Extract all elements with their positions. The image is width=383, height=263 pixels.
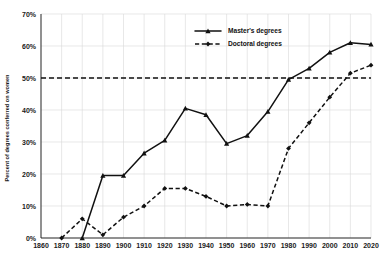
data-point-marker	[224, 204, 229, 209]
data-point-marker	[265, 204, 270, 209]
x-axis-tick-label: 1860	[33, 242, 49, 249]
grid-lines	[41, 14, 371, 238]
x-axis-tick-label: 1950	[219, 242, 235, 249]
legend-label: Doctoral degrees	[228, 40, 282, 48]
legend-item-masters[interactable]: Master's degrees	[195, 27, 282, 35]
x-axis-tick-label: 1870	[54, 242, 70, 249]
y-axis-tick-label: 20%	[22, 171, 37, 178]
x-axis-tick-label: 1920	[157, 242, 173, 249]
legend-marker-swatch	[206, 42, 211, 47]
y-axis-ticks: 0%10%20%30%40%50%60%70%	[22, 11, 37, 242]
y-axis-title: Percent of degrees conferred on women	[4, 74, 10, 182]
y-axis-tick-label: 60%	[22, 43, 37, 50]
data-point-marker	[204, 194, 209, 199]
x-axis-tick-label: 1880	[74, 242, 90, 249]
x-axis-ticks: 1860187018801890190019101920193019401950…	[33, 242, 379, 249]
y-axis-tick-label: 40%	[22, 107, 37, 114]
x-axis-tick-label: 1930	[178, 242, 194, 249]
legend-label: Master's degrees	[228, 27, 282, 35]
x-axis-tick-label: 1910	[136, 242, 152, 249]
x-axis-tick-label: 2000	[322, 242, 338, 249]
x-axis-tick-label: 1980	[281, 242, 297, 249]
y-axis-tick-label: 0%	[26, 235, 37, 242]
legend: Master's degreesDoctoral degrees	[195, 27, 282, 48]
x-axis-tick-label: 1900	[116, 242, 132, 249]
data-point-marker	[369, 63, 374, 68]
x-axis-tick-label: 1890	[95, 242, 111, 249]
series-group	[59, 40, 373, 240]
legend-item-doctoral[interactable]: Doctoral degrees	[195, 40, 282, 48]
x-axis-tick-label: 2020	[363, 242, 379, 249]
x-axis-tick-label: 1990	[301, 242, 317, 249]
x-axis-tick-label: 1970	[260, 242, 276, 249]
y-axis-tick-label: 50%	[22, 75, 37, 82]
x-axis-tick-label: 1960	[239, 242, 255, 249]
data-point-marker	[183, 186, 188, 191]
y-axis-tick-label: 10%	[22, 203, 37, 210]
y-axis-tick-label: 30%	[22, 139, 37, 146]
line-chart: 0%10%20%30%40%50%60%70% 1860187018801890…	[0, 0, 383, 263]
series-path	[62, 65, 371, 238]
y-axis-tick-label: 70%	[22, 11, 37, 18]
x-axis-tick-label: 1940	[198, 242, 214, 249]
series-doctoral	[59, 63, 373, 241]
chart-container: 0%10%20%30%40%50%60%70% 1860187018801890…	[0, 0, 383, 263]
x-axis-tick-label: 2010	[343, 242, 359, 249]
